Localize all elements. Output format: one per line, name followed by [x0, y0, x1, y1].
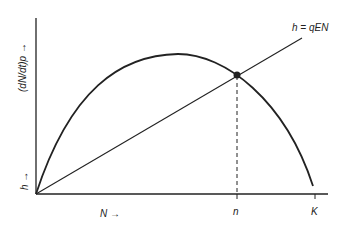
- y-axis-label: (dN/dt)p →: [17, 43, 28, 92]
- growth-curve: [36, 54, 313, 194]
- diagram-canvas: [0, 0, 353, 230]
- tick-label-n: n: [233, 206, 239, 217]
- tick-label-K: K: [311, 206, 318, 217]
- h-axis-label: h →: [19, 172, 30, 190]
- line-label: h = qEN: [292, 22, 328, 33]
- x-axis-label: N →: [100, 208, 120, 219]
- harvest-line: [36, 38, 302, 194]
- equilibrium-point: [234, 72, 241, 79]
